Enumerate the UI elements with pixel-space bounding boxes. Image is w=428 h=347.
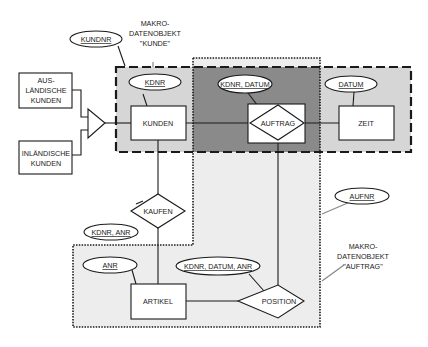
- relationship-kaufen-label: KAUFEN: [143, 207, 172, 216]
- attribute-kdnr-datum-label: KDNR, DATUM: [220, 80, 269, 89]
- attribute-kdnr-datum-anr-label: KDNR, DATUM, ANR: [184, 262, 252, 271]
- entity-kunden-label: KUNDEN: [143, 119, 173, 128]
- attribute-kdnr-label: KDNR: [145, 78, 165, 87]
- macro-auftrag-label-line2: DATENOBJEKT: [337, 252, 389, 261]
- entity-inlaendische-kunden-line2: KUNDEN: [31, 159, 61, 168]
- attribute-aufnr-label: AUFNR: [350, 192, 375, 201]
- attribute-datum-label: DATUM: [338, 80, 363, 89]
- relationship-auftrag-label: AUFTRAG: [261, 119, 296, 128]
- macro-kunde-label-line2: DATENOBJEKT: [129, 29, 181, 38]
- relationship-position-label: POSITION: [262, 297, 296, 306]
- macro-kunde-label-line1: MAKRO-: [141, 19, 170, 28]
- attribute-kundnr-label: KUNDNR: [81, 35, 112, 44]
- entity-auslaendische-kunden-line2: LÄNDISCHE: [25, 86, 66, 95]
- attribute-kdnr-anr-label: KDNR, ANR: [91, 228, 130, 237]
- attribute-anr-label: ANR: [102, 261, 117, 270]
- macro-auftrag-label-line1: MAKRO-: [349, 242, 378, 251]
- generalization-triangle-icon: [88, 109, 105, 138]
- entity-auslaendische-kunden-line1: AUS-: [37, 76, 55, 85]
- entity-artikel-label: ARTIKEL: [143, 297, 173, 306]
- macro-kunde-label-line3: "KUNDE": [140, 39, 171, 48]
- entity-auslaendische-kunden-line3: KUNDEN: [31, 96, 61, 105]
- entity-inlaendische-kunden-line1: INLÄNDISCHE: [22, 149, 71, 158]
- macro-auftrag-label-line3: "AUFTRAG": [343, 262, 383, 271]
- entity-zeit-label: ZEIT: [358, 119, 374, 128]
- er-diagram: AUS- LÄNDISCHE KUNDEN INLÄNDISCHE KUNDEN…: [0, 0, 428, 347]
